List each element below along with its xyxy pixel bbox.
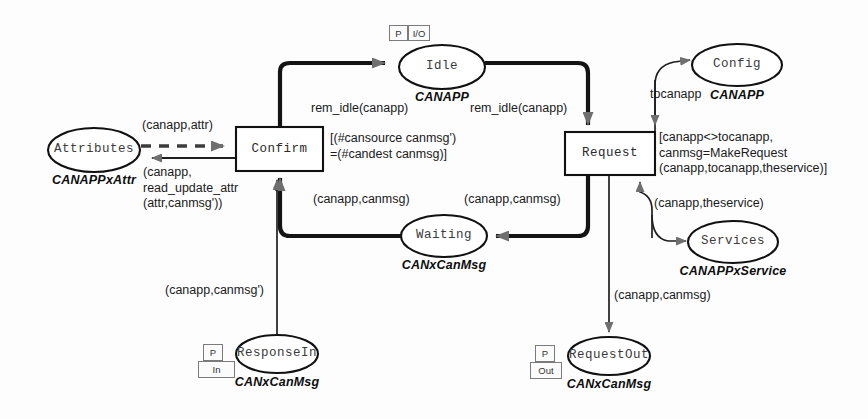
guard-request: [canapp<>tocanapp,canmsg=MakeRequest(can… [659, 130, 827, 177]
arc-services-to-request [640, 182, 652, 238]
arc-label-services-to-request: (canapp,theservice) [654, 196, 764, 212]
colourset-services: CANAPPxService [653, 264, 813, 278]
port-tag-idle-p: P [389, 25, 408, 41]
guard-confirm: [(#cansource canmsg')=(#candest canmsg)] [330, 131, 456, 162]
arc-label-idle-to-request: rem_idle(canapp) [470, 101, 567, 117]
arc-label-request-to-config: tocanapp [650, 87, 701, 103]
port-tag-requestout-p: P [535, 345, 555, 362]
arc-label-waiting-to-confirm: (canapp,canmsg) [313, 192, 410, 208]
place-services-label: Services [683, 234, 783, 248]
port-tag-idle-dir: I/O [408, 25, 430, 41]
place-responsein-label: ResponseIn [227, 346, 327, 360]
arc-label-confirm-to-idle: rem_idle(canapp) [311, 101, 408, 117]
arc-label-request-to-waiting: (canapp,canmsg) [464, 192, 561, 208]
colourset-waiting: CANxCanMsg [374, 258, 514, 272]
place-waiting-label: Waiting [394, 228, 494, 242]
arc-label-attributes-to-confirm: (canapp,attr) [142, 118, 213, 134]
port-tag-requestout-dir: Out [530, 362, 562, 379]
cpn-diagram-canvas: Attributes Idle Config Waiting Services … [0, 0, 868, 419]
arc-label-confirm-to-attributes: (canapp,read_update_attr(attr,canmsg')) [143, 165, 238, 212]
port-tag-responsein-p: P [203, 344, 223, 361]
transition-confirm-label: Confirm [236, 142, 323, 156]
place-idle-label: Idle [392, 59, 492, 73]
arc-request-to-services [652, 215, 686, 241]
arc-label-responsein-to-confirm: (canapp,canmsg') [165, 283, 264, 299]
place-attributes-label: Attributes [44, 142, 144, 156]
transition-request-label: Request [565, 146, 655, 160]
place-config-label: Config [687, 57, 787, 71]
place-requestout-label: RequestOut [559, 348, 659, 362]
arc-confirm-to-idle [280, 63, 385, 127]
arc-label-request-to-requestout: (canapp,canmsg) [614, 288, 711, 304]
colourset-requestout: CANxCanMsg [539, 377, 679, 391]
port-tag-responsein-dir: In [198, 361, 235, 378]
